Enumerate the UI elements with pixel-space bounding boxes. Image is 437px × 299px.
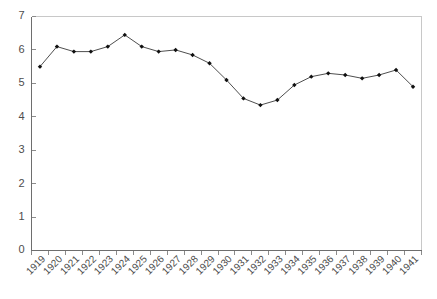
x-axis: 1919192019211922192319241925192619271928… [24,251,422,277]
data-point [309,74,313,78]
series-line-path [40,35,413,105]
y-axis: 01234567 [18,9,35,255]
y-tick-label: 6 [18,43,24,55]
chart-canvas: 01234567 1919192019211922192319241925192… [0,0,437,299]
data-point [360,76,364,80]
data-point [89,49,93,53]
x-axis-tick-labels: 1919192019211922192319241925192619271928… [24,253,421,277]
data-series [38,33,415,108]
data-point [190,53,194,57]
data-point [326,71,330,75]
y-axis-ticks [32,17,36,251]
data-point [173,48,177,52]
x-tick-label: 1941 [397,253,421,277]
y-tick-label: 0 [18,243,24,255]
data-point [156,49,160,53]
y-tick-label: 3 [18,143,24,155]
y-tick-label: 1 [18,210,24,222]
y-axis-tick-labels: 01234567 [18,9,24,255]
data-point [258,103,262,107]
y-tick-label: 4 [18,110,24,122]
data-point [343,73,347,77]
y-tick-label: 2 [18,177,24,189]
series-markers [38,33,415,108]
y-tick-label: 5 [18,76,24,88]
data-point [377,73,381,77]
y-tick-label: 7 [18,9,24,21]
data-point [72,49,76,53]
line-chart: 01234567 1919192019211922192319241925192… [0,0,437,299]
